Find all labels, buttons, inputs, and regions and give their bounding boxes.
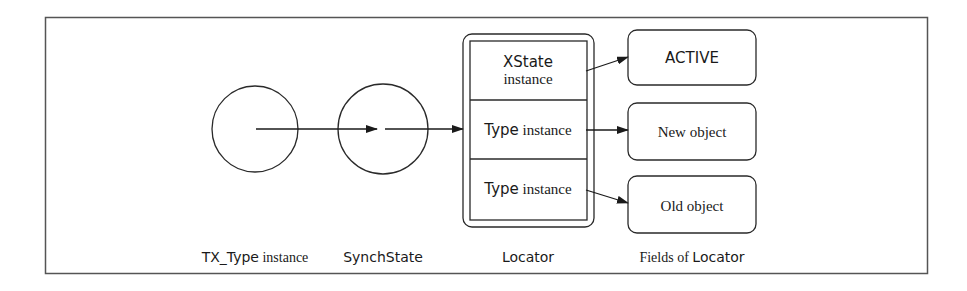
field-old-object-label: Old object xyxy=(661,198,725,214)
locator-cell-xstate-line1: XState xyxy=(503,53,553,71)
edge-type2-to-old-object xyxy=(586,190,628,203)
figure-frame xyxy=(46,18,928,274)
locator-cell-type-instance-2: Type instance xyxy=(483,180,572,198)
field-old-object-node: Old object xyxy=(628,176,756,233)
locator-cell-type-instance-1: Type instance xyxy=(483,121,572,139)
caption-fields-of-locator: Fields of Locator xyxy=(639,249,744,265)
locator-node: XState instance Type instance Type insta… xyxy=(463,34,594,227)
edge-xstate-to-active xyxy=(586,57,628,71)
field-active-node: ACTIVE xyxy=(628,30,756,85)
locator-diagram: XState instance Type instance Type insta… xyxy=(0,0,967,291)
field-active-label: ACTIVE xyxy=(665,49,719,67)
field-new-object-node: New object xyxy=(628,103,756,160)
caption-locator: Locator xyxy=(502,249,554,265)
caption-synch-state: SynchState xyxy=(343,249,423,265)
caption-tx-type-instance: TX_Type instance xyxy=(201,249,309,265)
locator-cell-xstate-line2: instance xyxy=(503,71,552,87)
field-new-object-label: New object xyxy=(658,124,728,140)
